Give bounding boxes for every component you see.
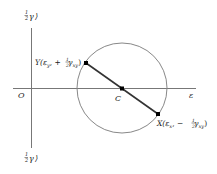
origin-label: O [18,91,25,100]
svg-text:Y(εy, +: Y(εy, + [35,58,61,69]
point-center [120,87,124,91]
point-y-label: Y(εy, + 1 2 γxy) [35,57,81,69]
point-x-label: X(εx, − 1 2 γxy) [156,118,207,130]
svg-text:γxy): γxy) [194,119,207,130]
svg-text:γ: γ [29,154,34,163]
svg-text:2: 2 [24,157,28,163]
svg-text:⟩: ⟩ [34,154,38,163]
svg-text:γxy): γxy) [68,58,81,69]
svg-text:⟩: ⟩ [34,12,38,21]
center-label: C [115,94,121,103]
epsilon-axis-label: ε [189,91,193,100]
point-y [84,61,88,65]
vertical-top-label: 1 2 γ ⟩ [24,9,38,21]
svg-text:X(εx, −: X(εx, − [156,119,183,129]
point-x [156,112,160,116]
vertical-bottom-label: 1 2 γ ⟩ [24,151,38,163]
svg-text:γ: γ [29,12,34,21]
mohr-circle-diagram: 1 2 γ ⟩ 1 2 γ ⟩ O ε C Y(εy, + 1 2 γxy) X… [0,0,217,174]
svg-text:2: 2 [24,15,28,21]
